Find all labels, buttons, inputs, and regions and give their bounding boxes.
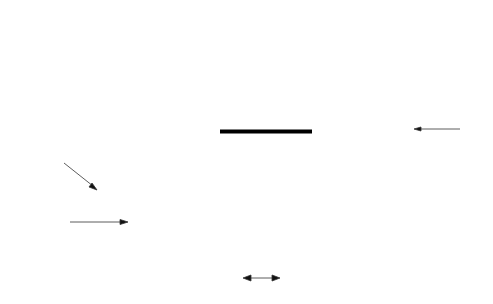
ground-motion-arrow-right-icon <box>272 275 280 281</box>
mesh-arrow-icon <box>120 220 128 225</box>
foundation-slab <box>220 130 312 134</box>
leader-lines <box>64 127 460 281</box>
boundary-leader <box>64 163 93 186</box>
ground-motion-arrow-left-icon <box>243 275 251 281</box>
soil-structure-diagram <box>0 0 493 304</box>
soil-arrow-icon <box>414 127 421 131</box>
